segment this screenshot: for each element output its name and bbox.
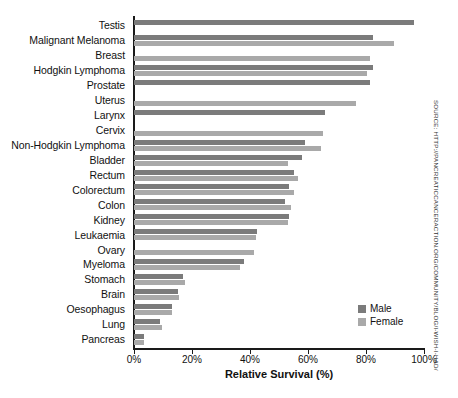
bar-group: [134, 227, 424, 242]
bar-group: [134, 78, 424, 93]
category-label: Uterus: [0, 93, 130, 108]
bar-female: [134, 176, 298, 181]
bar-male: [134, 20, 414, 25]
legend-swatch-male: [358, 305, 366, 313]
x-tick-label: 80%: [356, 354, 376, 365]
category-label: Rectum: [0, 168, 130, 183]
bar-female: [134, 101, 356, 106]
bar-group: [134, 212, 424, 227]
bar-female: [134, 325, 162, 330]
legend-swatch-female: [358, 318, 366, 326]
bar-male: [134, 199, 285, 204]
x-axis-title: Relative Survival (%): [134, 368, 424, 380]
bar-group: [134, 272, 424, 287]
category-label: Breast: [0, 48, 130, 63]
category-label: Non-Hodgkin Lymphoma: [0, 138, 130, 153]
x-tick-label: 0%: [127, 354, 141, 365]
bar-male: [134, 259, 244, 264]
bar-group: [134, 33, 424, 48]
legend-item[interactable]: Male: [358, 303, 403, 314]
bar-male: [134, 319, 160, 324]
bar-female: [134, 220, 288, 225]
category-label: Prostate: [0, 78, 130, 93]
bar-group: [134, 332, 424, 347]
bar-female: [134, 71, 367, 76]
category-label: Leukaemia: [0, 227, 130, 242]
bar-male: [134, 274, 183, 279]
bar-male: [134, 65, 373, 70]
source-note: SOURCE: HTTP://PANCREATICCANCERACTION.OR…: [433, 100, 440, 371]
category-label: Ovary: [0, 242, 130, 257]
category-label: Oesophagus: [0, 302, 130, 317]
bar-male: [134, 35, 373, 40]
bar-male: [134, 140, 305, 145]
bar-female: [134, 190, 294, 195]
bar-male: [134, 155, 302, 160]
bar-female: [134, 340, 144, 345]
plot-area: [134, 18, 424, 347]
bar-female: [134, 280, 185, 285]
bar-group: [134, 242, 424, 257]
bar-male: [134, 304, 172, 309]
bar-group: [134, 287, 424, 302]
category-axis: TestisMalignant MelanomaBreastHodgkin Ly…: [0, 18, 130, 347]
bar-group: [134, 18, 424, 33]
legend-item[interactable]: Female: [358, 316, 403, 327]
bar-male: [134, 170, 294, 175]
category-label: Pancreas: [0, 332, 130, 347]
bar-female: [134, 161, 288, 166]
bar-group: [134, 138, 424, 153]
bar-male: [134, 110, 325, 115]
bar-female: [134, 295, 179, 300]
bar-group: [134, 108, 424, 123]
bar-group: [134, 197, 424, 212]
category-label: Kidney: [0, 212, 130, 227]
category-label: Hodgkin Lymphoma: [0, 63, 130, 78]
bar-female: [134, 310, 172, 315]
x-axis-ticks: 0%20%40%60%80%100%: [134, 350, 424, 366]
x-tick-label: 40%: [240, 354, 260, 365]
bar-male: [134, 184, 289, 189]
bar-female: [134, 265, 240, 270]
bar-male: [134, 289, 178, 294]
bar-male: [134, 214, 289, 219]
x-tick-label: 20%: [182, 354, 202, 365]
bar-group: [134, 182, 424, 197]
relative-survival-bar-chart: TestisMalignant MelanomaBreastHodgkin Ly…: [0, 0, 458, 398]
category-label: Bladder: [0, 153, 130, 168]
bar-group: [134, 153, 424, 168]
category-label: Larynx: [0, 108, 130, 123]
category-label: Colorectum: [0, 182, 130, 197]
bar-female: [134, 131, 323, 136]
bar-female: [134, 146, 321, 151]
bar-female: [134, 250, 254, 255]
x-tick-label: 60%: [298, 354, 318, 365]
category-label: Myeloma: [0, 257, 130, 272]
category-label: Colon: [0, 197, 130, 212]
bar-male: [134, 80, 370, 85]
legend-label: Female: [370, 316, 403, 327]
bar-female: [134, 56, 370, 61]
bar-group: [134, 168, 424, 183]
bar-group: [134, 63, 424, 78]
category-label: Testis: [0, 18, 130, 33]
chart-legend: MaleFemale: [358, 303, 403, 327]
bar-male: [134, 334, 144, 339]
bar-group: [134, 123, 424, 138]
category-label: Cervix: [0, 123, 130, 138]
category-label: Lung: [0, 317, 130, 332]
category-label: Stomach: [0, 272, 130, 287]
bar-female: [134, 205, 291, 210]
bar-group: [134, 257, 424, 272]
legend-label: Male: [370, 303, 392, 314]
bar-group: [134, 93, 424, 108]
category-label: Brain: [0, 287, 130, 302]
bar-male: [134, 229, 257, 234]
bar-female: [134, 235, 256, 240]
bar-group: [134, 48, 424, 63]
category-label: Malignant Melanoma: [0, 33, 130, 48]
bar-female: [134, 41, 394, 46]
